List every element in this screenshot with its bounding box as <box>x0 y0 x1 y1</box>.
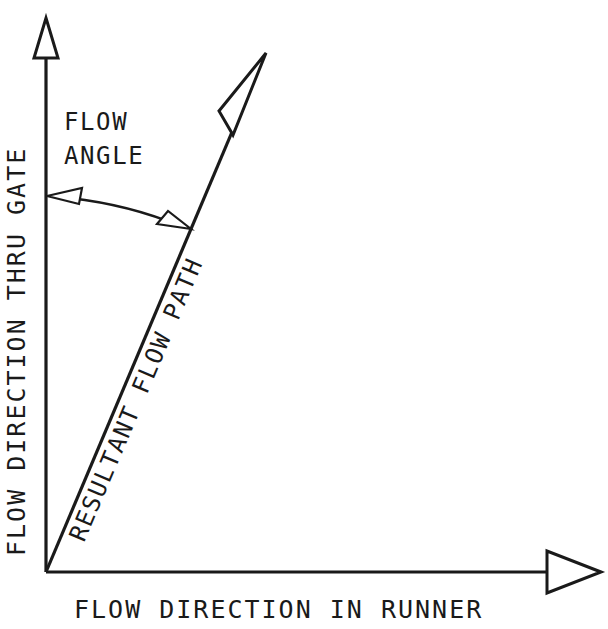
resultant-flow-path-arrowhead-icon <box>219 53 266 135</box>
flow-angle-arc-left-arrowhead-icon <box>47 188 82 204</box>
diagram-canvas: FLOW DIRECTION THRU GATE FLOW DIRECTION … <box>0 0 608 629</box>
flow-angle-arc-right-arrowhead-icon <box>157 211 191 229</box>
flow-angle-diagram: FLOW DIRECTION THRU GATE FLOW DIRECTION … <box>0 0 608 629</box>
flow-angle-label-line1: FLOW <box>64 108 128 136</box>
x-axis-arrowhead-icon <box>547 551 601 593</box>
resultant-flow-path-label: RESULTANT FLOW PATH <box>64 254 209 546</box>
y-axis-group <box>34 18 58 572</box>
y-axis-arrowhead-icon <box>34 18 58 58</box>
flow-angle-label-line2: ANGLE <box>64 142 144 170</box>
x-axis-group <box>46 551 601 593</box>
resultant-flow-path-line <box>46 106 243 572</box>
y-axis-label: FLOW DIRECTION THRU GATE <box>2 147 31 556</box>
flow-angle-arc-group <box>47 188 191 229</box>
x-axis-label: FLOW DIRECTION IN RUNNER <box>74 595 483 624</box>
